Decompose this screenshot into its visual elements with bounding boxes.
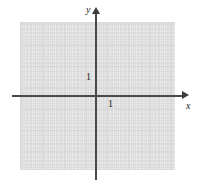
y-axis-unit-tick-label: 1 [86, 72, 91, 82]
x-axis-unit-tick-label: 1 [108, 99, 113, 109]
y-axis-label: y [86, 5, 90, 15]
x-axis-label: x [186, 101, 190, 111]
y-axis-line [95, 13, 97, 180]
coordinate-plane-figure: y x 1 1 [0, 0, 200, 191]
y-axis-arrowhead-icon [92, 7, 100, 14]
x-axis-line [12, 95, 184, 97]
x-axis-arrowhead-icon [182, 91, 189, 99]
